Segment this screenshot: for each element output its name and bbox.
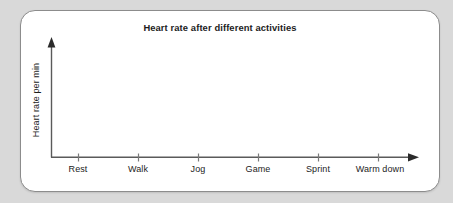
x-axis-tick-labels: Rest Walk Jog Game Sprint Warm down xyxy=(0,164,453,178)
x-axis-arrowhead xyxy=(408,153,419,161)
y-axis-label: Heart rate per min xyxy=(31,63,41,137)
x-tick-label-rest: Rest xyxy=(69,164,88,174)
chart-screenshot: Heart rate after different activities He… xyxy=(0,0,453,203)
x-tick-label-warm-down: Warm down xyxy=(356,164,405,174)
x-tick-label-game: Game xyxy=(246,164,271,174)
x-tick-label-walk: Walk xyxy=(128,164,148,174)
x-tick-label-sprint: Sprint xyxy=(306,164,330,174)
y-axis-arrowhead xyxy=(48,37,56,48)
x-tick-label-jog: Jog xyxy=(191,164,206,174)
